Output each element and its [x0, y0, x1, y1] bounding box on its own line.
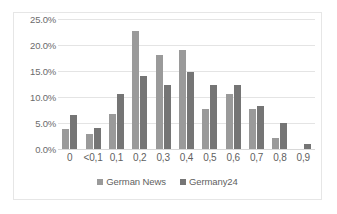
chart-legend: German NewsGermany24: [14, 176, 321, 187]
chart-frame: 0.0%5.0%10.0%15.0%20.0%25.0% 0<0,10,10,2…: [13, 12, 322, 200]
bar[interactable]: [280, 123, 287, 149]
bar-group: [81, 19, 104, 149]
bar[interactable]: [226, 94, 233, 149]
x-axis-tick-label: <0,1: [81, 152, 104, 172]
bar-group: [175, 19, 198, 149]
y-axis-tick-label: 25.0%: [30, 14, 56, 25]
x-axis-tick-label: 0,4: [175, 152, 198, 172]
legend-swatch-icon: [97, 179, 103, 185]
bar[interactable]: [249, 109, 256, 149]
bar[interactable]: [94, 128, 101, 149]
x-axis-tick-label: 0: [58, 152, 81, 172]
bar-group: [58, 19, 81, 149]
y-axis-tick-label: 15.0%: [30, 66, 56, 77]
bar[interactable]: [304, 144, 311, 149]
y-axis: 0.0%5.0%10.0%15.0%20.0%25.0%: [18, 19, 56, 149]
bar[interactable]: [132, 31, 139, 149]
y-axis-tick-label: 20.0%: [30, 40, 56, 51]
legend-label: Germany24: [189, 176, 238, 187]
bar[interactable]: [234, 85, 241, 149]
bar[interactable]: [187, 72, 194, 149]
bar-group: [128, 19, 151, 149]
x-axis-tick-label: 0,6: [222, 152, 245, 172]
bar[interactable]: [164, 85, 171, 149]
x-axis-tick-label: 0,1: [105, 152, 128, 172]
bar[interactable]: [86, 134, 93, 149]
bar[interactable]: [179, 50, 186, 149]
bar-group: [222, 19, 245, 149]
x-axis-tick-label: 0,2: [128, 152, 151, 172]
legend-label: German News: [106, 176, 166, 187]
bar-group: [245, 19, 268, 149]
bar-group: [292, 19, 315, 149]
bar[interactable]: [140, 76, 147, 149]
bar[interactable]: [62, 129, 69, 149]
y-axis-tick-label: 5.0%: [35, 118, 56, 129]
x-axis: 0<0,10,10,20,30,40,50,60,70,80,9: [58, 152, 315, 172]
x-axis-tick-label: 0,7: [245, 152, 268, 172]
y-axis-tick-label: 10.0%: [30, 92, 56, 103]
bar[interactable]: [109, 114, 116, 149]
bar[interactable]: [202, 109, 209, 149]
legend-item[interactable]: German News: [97, 176, 166, 187]
bar[interactable]: [70, 115, 77, 149]
legend-item[interactable]: Germany24: [180, 176, 238, 187]
bar-group: [151, 19, 174, 149]
x-axis-tick-label: 0,5: [198, 152, 221, 172]
chart-plot-wrapper: 0.0%5.0%10.0%15.0%20.0%25.0% 0<0,10,10,2…: [14, 13, 321, 199]
bar[interactable]: [210, 85, 217, 149]
bars-layer: [58, 19, 315, 149]
bar-group: [198, 19, 221, 149]
bar-group: [268, 19, 291, 149]
x-axis-tick-label: 0,8: [268, 152, 291, 172]
y-axis-tick-label: 0.0%: [35, 144, 56, 155]
x-axis-tick-label: 0,9: [292, 152, 315, 172]
bar-group: [105, 19, 128, 149]
axis-baseline: [58, 149, 315, 150]
legend-swatch-icon: [180, 179, 186, 185]
x-axis-tick-label: 0,3: [151, 152, 174, 172]
bar[interactable]: [272, 138, 279, 149]
plot-area: [58, 19, 315, 149]
bar[interactable]: [156, 55, 163, 149]
bar[interactable]: [117, 94, 124, 149]
bar[interactable]: [257, 106, 264, 149]
